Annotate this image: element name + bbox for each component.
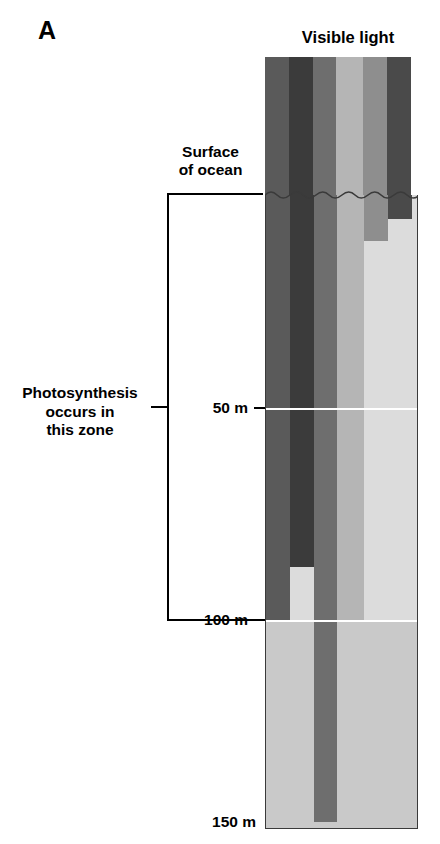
depth-gridline-100px	[266, 620, 417, 622]
light-band-5-penetration	[364, 195, 388, 241]
photosynthesis-label-line-1: Photosynthesis	[8, 384, 152, 403]
depth-gridline-50m	[266, 408, 417, 410]
visible-light-title: Visible light	[258, 29, 438, 46]
light-band-2-above	[289, 57, 313, 196]
surface-label-line-2: of ocean	[158, 161, 263, 179]
photosynthesis-zone-bracket	[167, 193, 263, 621]
visible-light-beams-above-water	[265, 57, 418, 196]
surface-of-ocean-label: Surface of ocean	[158, 143, 263, 179]
light-band-3-penetration	[314, 195, 337, 822]
figure-panel-a: A Visible light Surface of ocean 50 m	[0, 0, 440, 844]
bracket-bottom-arm	[167, 619, 263, 621]
water-lower-zone	[266, 620, 417, 828]
bracket-leader-line	[151, 406, 167, 408]
photosynthesis-label-line-2: occurs in	[8, 403, 152, 422]
light-band-5-above	[363, 57, 387, 196]
photosynthesis-label-line-3: this zone	[8, 421, 152, 440]
bracket-top-arm	[167, 193, 263, 195]
light-band-1-above	[265, 57, 289, 196]
photosynthesis-zone-label: Photosynthesis occurs in this zone	[8, 384, 152, 440]
ocean-water-column	[265, 195, 418, 829]
light-band-6-above	[387, 57, 411, 196]
light-band-3-above	[313, 57, 336, 196]
panel-letter: A	[38, 18, 56, 43]
light-band-4-above	[336, 57, 363, 196]
bracket-vertical	[167, 193, 169, 621]
light-band-6-penetration	[388, 195, 412, 219]
light-band-2-penetration	[290, 195, 314, 567]
depth-tick-label-150m: 150 m	[170, 814, 256, 830]
surface-label-line-1: Surface	[158, 143, 263, 161]
